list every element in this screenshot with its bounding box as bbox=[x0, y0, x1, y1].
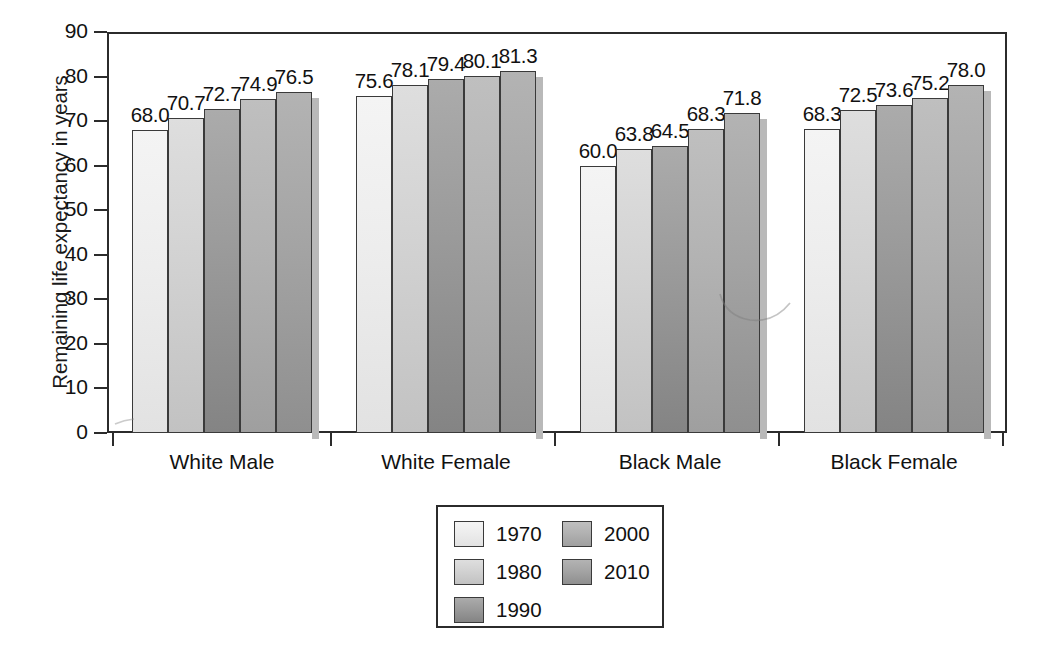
legend-entry-1990[interactable]: 1990 bbox=[454, 597, 542, 623]
bar-white-female-2010 bbox=[500, 71, 536, 433]
bar-white-male-2000 bbox=[240, 99, 276, 433]
legend-label-1980: 1980 bbox=[496, 561, 542, 583]
bar-black-female-1970 bbox=[804, 129, 840, 433]
bar-white-male-1980 bbox=[168, 118, 204, 433]
bar-value-label: 81.3 bbox=[496, 45, 540, 67]
bar-white-female-1970 bbox=[356, 96, 392, 433]
bar-white-male-1970 bbox=[132, 130, 168, 433]
category-label-white-female: White Female bbox=[316, 450, 576, 474]
legend-swatch-2010 bbox=[562, 559, 592, 585]
legend: 19701980199020002010 bbox=[436, 505, 664, 628]
legend-entry-1980[interactable]: 1980 bbox=[454, 559, 542, 585]
bar-group-shadow bbox=[760, 119, 767, 439]
legend-entry-2010[interactable]: 2010 bbox=[562, 559, 650, 585]
legend-label-1970: 1970 bbox=[496, 523, 542, 545]
bar-black-female-1990 bbox=[876, 105, 912, 433]
legend-swatch-1970 bbox=[454, 521, 484, 547]
category-label-white-male: White Male bbox=[92, 450, 352, 474]
legend-swatch-1990 bbox=[454, 597, 484, 623]
bar-black-male-1980 bbox=[616, 149, 652, 433]
legend-label-2010: 2010 bbox=[604, 561, 650, 583]
bar-black-male-2000 bbox=[688, 129, 724, 433]
bar-group-shadow bbox=[312, 98, 319, 439]
bar-black-male-1990 bbox=[652, 146, 688, 433]
legend-swatch-2000 bbox=[562, 521, 592, 547]
bar-value-label: 68.3 bbox=[800, 103, 844, 125]
category-label-black-male: Black Male bbox=[540, 450, 800, 474]
legend-label-2000: 2000 bbox=[604, 523, 650, 545]
bar-black-female-1980 bbox=[840, 110, 876, 433]
bar-white-female-1990 bbox=[428, 79, 464, 433]
bar-black-female-2010 bbox=[948, 85, 984, 433]
bar-white-female-1980 bbox=[392, 85, 428, 433]
category-label-black-female: Black Female bbox=[764, 450, 1024, 474]
bar-black-male-1970 bbox=[580, 166, 616, 433]
legend-entry-2000[interactable]: 2000 bbox=[562, 521, 650, 547]
bar-chart: Remaining life expectancy in years 01020… bbox=[0, 0, 1044, 654]
bar-value-label: 78.0 bbox=[944, 59, 988, 81]
legend-swatch-1980 bbox=[454, 559, 484, 585]
bar-black-female-2000 bbox=[912, 98, 948, 433]
bar-black-male-2010 bbox=[724, 113, 760, 433]
bar-group-shadow bbox=[536, 77, 543, 439]
legend-entry-1970[interactable]: 1970 bbox=[454, 521, 542, 547]
bar-value-label: 71.8 bbox=[720, 87, 764, 109]
legend-label-1990: 1990 bbox=[496, 599, 542, 621]
bar-white-male-1990 bbox=[204, 109, 240, 433]
bar-value-label: 76.5 bbox=[272, 66, 316, 88]
bar-white-female-2000 bbox=[464, 76, 500, 433]
bar-group-shadow bbox=[984, 91, 991, 439]
bar-white-male-2010 bbox=[276, 92, 312, 433]
